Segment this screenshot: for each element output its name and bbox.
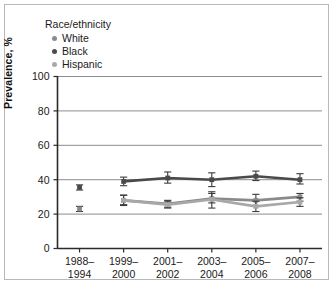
axis-lines-group <box>58 76 323 249</box>
x-tick-label-3-line2: 2004 <box>200 268 224 280</box>
x-tick-label-1-line1: 1999– <box>109 255 138 267</box>
plot-area-wrapper: 020406080100 1988–19941999–20002001–2002… <box>0 0 333 285</box>
data-point-white-0[interactable] <box>77 207 82 212</box>
data-point-black-0[interactable] <box>77 185 82 190</box>
data-point-black-5[interactable] <box>298 177 303 182</box>
y-tick-group: 020406080100 <box>32 70 58 254</box>
x-tick-label-1-line2: 2000 <box>112 268 136 280</box>
series-black <box>76 171 304 190</box>
y-tick-label-20: 20 <box>38 208 50 220</box>
y-tick-label-100: 100 <box>32 70 50 82</box>
x-tick-label-0-line1: 1988– <box>65 255 94 267</box>
y-tick-label-40: 40 <box>38 174 50 186</box>
data-point-black-4[interactable] <box>253 174 258 179</box>
x-tick-label-3-line1: 2003– <box>197 255 226 267</box>
x-tick-label-5-line1: 2007– <box>285 255 314 267</box>
figure-panel: Race/ethnicity White Black Hispanic Prev… <box>0 0 333 285</box>
line-chart-svg: 020406080100 1988–19941999–20002001–2002… <box>0 0 333 285</box>
y-tick-label-60: 60 <box>38 139 50 151</box>
data-point-black-3[interactable] <box>209 177 214 182</box>
data-point-hispanic-1[interactable] <box>121 198 126 203</box>
gridlines-group <box>58 77 323 249</box>
x-tick-label-0-line2: 1994 <box>68 268 92 280</box>
data-point-hispanic-5[interactable] <box>298 200 303 205</box>
x-tick-label-2-line2: 2002 <box>156 268 180 280</box>
x-tick-group: 1988–19941999–20002001–20022003–20042005… <box>65 249 315 280</box>
y-tick-label-80: 80 <box>38 105 50 117</box>
data-point-black-2[interactable] <box>165 176 170 181</box>
x-tick-label-4-line1: 2005– <box>241 255 270 267</box>
series-hispanic <box>120 192 304 212</box>
data-point-black-1[interactable] <box>121 179 126 184</box>
data-point-hispanic-2[interactable] <box>165 202 170 207</box>
data-point-hispanic-3[interactable] <box>209 197 214 202</box>
x-tick-label-5-line2: 2008 <box>288 268 312 280</box>
y-tick-label-0: 0 <box>44 242 50 254</box>
data-point-hispanic-4[interactable] <box>253 204 258 209</box>
x-tick-label-2-line1: 2001– <box>153 255 182 267</box>
x-tick-label-4-line2: 2006 <box>244 268 268 280</box>
data-series-group <box>76 171 304 211</box>
